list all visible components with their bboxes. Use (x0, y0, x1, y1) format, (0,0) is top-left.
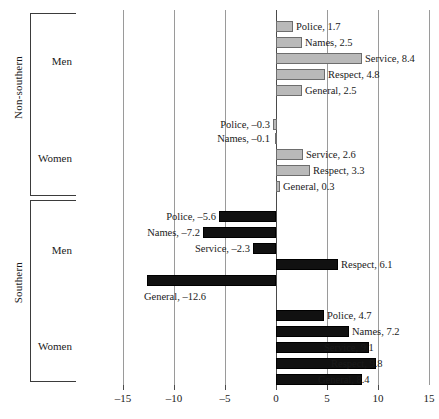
datalabel-nonsouthern-women-police: Police, –0.3 (173, 119, 270, 130)
gridline--5 (225, 10, 226, 385)
datalabel-nonsouthern-women-respect: Respect, 3.3 (313, 165, 365, 176)
datalabel-southern-women-names: Names, 7.2 (352, 326, 400, 337)
axis-ticklabel-0: 0 (256, 392, 296, 404)
axis-tick-5 (327, 385, 328, 390)
axis-tick--5 (225, 385, 226, 390)
bar-nonsouthern-women-respect (276, 165, 310, 176)
datalabel-southern-women-general: General, 8.4 (318, 374, 370, 385)
bar-nonsouthern-women-general (276, 181, 280, 192)
bar-southern-women-police (276, 310, 324, 321)
bar-nonsouthern-men-names (276, 37, 302, 48)
datalabel-southern-women-respect: Respect, 9.8 (331, 358, 383, 369)
datalabel-southern-women-service: Service, 9.1 (324, 342, 374, 353)
axis-ticklabel-5: 5 (307, 392, 347, 404)
axis-tick--10 (174, 385, 175, 390)
datalabel-nonsouthern-men-names: Names, 2.5 (305, 37, 353, 48)
gridline--10 (174, 10, 175, 385)
axis-ticklabel--5: –5 (205, 392, 245, 404)
datalabel-southern-men-names: Names, –7.2 (100, 227, 200, 238)
bar-nonsouthern-women-names (275, 133, 277, 144)
bar-nonsouthern-men-service (276, 53, 362, 64)
axis-ticklabel--10: –10 (154, 392, 194, 404)
datalabel-southern-men-respect: Respect, 6.1 (341, 259, 393, 270)
bar-southern-men-general (147, 275, 276, 286)
datalabel-southern-men-service: Service, –2.3 (147, 243, 250, 254)
axis-ticklabel-15: 15 (409, 392, 439, 404)
gridline--15 (123, 10, 124, 385)
bar-southern-men-respect (276, 259, 338, 270)
bar-nonsouthern-men-respect (276, 69, 325, 80)
bar-southern-women-names (276, 326, 349, 337)
datalabel-nonsouthern-men-police: Police, 1.7 (296, 21, 341, 32)
gridline-15 (429, 10, 430, 385)
axis-tick-0 (276, 385, 277, 390)
axis-ticklabel--15: –15 (103, 392, 143, 404)
datalabel-southern-women-police: Police, 4.7 (327, 310, 372, 321)
datalabel-nonsouthern-women-general: General, 0.3 (283, 181, 335, 192)
datalabel-southern-men-police: Police, –5.6 (116, 211, 216, 222)
bar-southern-men-police (219, 211, 276, 222)
datalabel-southern-men-general: General, –12.6 (120, 291, 230, 302)
bar-nonsouthern-men-police (276, 21, 293, 32)
datalabel-nonsouthern-men-service: Service, 8.4 (365, 53, 415, 64)
datalabel-nonsouthern-men-respect: Respect, 4.8 (328, 69, 380, 80)
axis-tick-10 (378, 385, 379, 390)
bar-nonsouthern-women-service (276, 149, 303, 160)
bar-southern-men-names (203, 227, 276, 238)
datalabel-nonsouthern-women-service: Service, 2.6 (306, 149, 356, 160)
axis-ticklabel-10: 10 (358, 392, 398, 404)
bar-southern-men-service (253, 243, 276, 254)
bar-nonsouthern-men-general (276, 85, 302, 96)
datalabel-nonsouthern-women-names: Names, –0.1 (173, 133, 270, 144)
bar-nonsouthern-women-police (273, 119, 277, 130)
axis-tick--15 (123, 385, 124, 390)
datalabel-nonsouthern-men-general: General, 2.5 (305, 85, 357, 96)
